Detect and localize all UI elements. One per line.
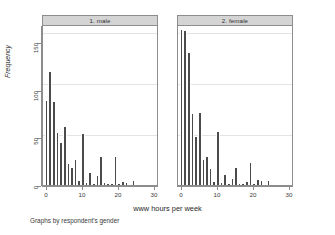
panel-header-male: 1. male bbox=[42, 15, 158, 26]
x-axis-line-female bbox=[177, 186, 293, 187]
y-axis-tick-label: 50 bbox=[33, 138, 39, 145]
x-axis-tick-label: 30 bbox=[286, 191, 293, 198]
x-axis-tick-label: 10 bbox=[79, 191, 86, 198]
x-axis-tick bbox=[181, 186, 182, 190]
histogram-bar bbox=[234, 168, 238, 185]
histogram-bar bbox=[132, 181, 136, 185]
x-axis-tick bbox=[46, 186, 47, 190]
x-axis-tick bbox=[82, 186, 83, 190]
x-axis-line-male bbox=[42, 186, 158, 187]
panel-title-female: 2. female bbox=[222, 17, 248, 24]
y-axis-tick-label: 0 bbox=[33, 186, 39, 189]
histogram-bar bbox=[125, 183, 129, 185]
x-axis-tick bbox=[154, 186, 155, 190]
y-axis-tick-label: 150 bbox=[33, 43, 39, 53]
histogram-bar bbox=[114, 157, 118, 185]
histogram-bar bbox=[81, 134, 85, 185]
y-axis-tick-label: 100 bbox=[33, 91, 39, 101]
figure-caption: Graphs by respondent's gender bbox=[30, 217, 119, 224]
y-axis-title: Frequency bbox=[4, 45, 11, 78]
x-axis-tick-label: 0 bbox=[179, 191, 182, 198]
x-axis-tick-label: 20 bbox=[115, 191, 122, 198]
x-axis-tick bbox=[253, 186, 254, 190]
y-axis-line bbox=[41, 26, 42, 186]
panel-header-female: 2. female bbox=[177, 15, 293, 26]
x-axis-tick bbox=[118, 186, 119, 190]
histogram-bar bbox=[260, 181, 264, 185]
bar-series-male bbox=[43, 26, 157, 185]
x-axis-tick bbox=[217, 186, 218, 190]
histogram-bar bbox=[249, 163, 253, 185]
x-axis-tick-label: 20 bbox=[250, 191, 257, 198]
histogram-bar bbox=[216, 132, 220, 185]
panel-title-male: 1. male bbox=[90, 17, 111, 24]
plot-area-female bbox=[177, 26, 293, 186]
x-axis-tick bbox=[289, 186, 290, 190]
plot-area-male bbox=[42, 26, 158, 186]
x-axis-title: www hours per week bbox=[0, 204, 335, 213]
x-axis-tick-label: 30 bbox=[151, 191, 158, 198]
histogram-bar bbox=[267, 181, 271, 185]
histogram-bar bbox=[99, 157, 103, 185]
bar-series-female bbox=[178, 26, 292, 185]
x-axis-tick-label: 0 bbox=[44, 191, 47, 198]
stata-histogram-figure: 1. male 2. female 050100150 Frequency 01… bbox=[0, 0, 335, 235]
x-axis-tick-label: 10 bbox=[214, 191, 221, 198]
